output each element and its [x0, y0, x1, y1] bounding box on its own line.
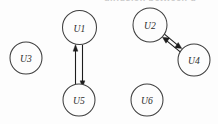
node-u4[interactable]: U4 [178, 44, 210, 76]
node-u4-label: U4 [188, 55, 200, 66]
edge-u1-u5-arrowhead-up [73, 45, 78, 52]
node-u5-label: U5 [73, 95, 85, 106]
node-u3[interactable]: U3 [10, 42, 42, 74]
node-u3-label: U3 [20, 53, 32, 64]
node-u2-label: U2 [144, 20, 156, 31]
graph-diagram-figure: diffusion between u U1 U2 [0, 0, 218, 124]
node-u1-label: U1 [74, 23, 86, 34]
node-u1[interactable]: U1 [63, 11, 97, 45]
edge-u1-u5 [73, 45, 85, 88]
node-u6[interactable]: U6 [131, 84, 163, 116]
node-u2[interactable]: U2 [133, 8, 167, 42]
node-u5[interactable]: U5 [63, 84, 95, 116]
node-u6-label: U6 [141, 95, 153, 106]
diagram-canvas: U1 U2 U3 U4 U5 U6 [0, 0, 218, 124]
edge-u2-u4 [162, 34, 181, 53]
